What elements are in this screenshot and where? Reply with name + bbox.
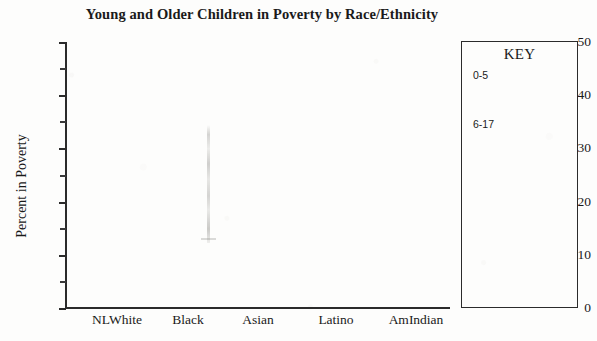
plot-area bbox=[67, 42, 450, 307]
x-tick-label-black: Black bbox=[172, 313, 204, 327]
chart-title: Young and Older Children in Poverty by R… bbox=[62, 6, 462, 23]
legend-entry-0-5: 0-5 bbox=[468, 70, 488, 81]
legend-label: 0-5 bbox=[473, 70, 488, 81]
x-tick-label-asian: Asian bbox=[242, 313, 274, 327]
x-tick-label-latino: Latino bbox=[318, 313, 353, 327]
x-axis-line bbox=[65, 307, 450, 309]
y-tick-minor bbox=[60, 281, 66, 283]
legend-label: 6-17 bbox=[473, 119, 494, 130]
y-tick-minor bbox=[60, 228, 66, 230]
y-tick-major bbox=[59, 42, 66, 44]
x-tick-label-amindian: AmIndian bbox=[389, 313, 444, 327]
chart-page: Young and Older Children in Poverty by R… bbox=[0, 0, 597, 341]
y-tick-minor bbox=[60, 121, 66, 123]
legend-box: KEY 0-56-17 bbox=[461, 41, 578, 308]
scan-artifact bbox=[207, 125, 210, 243]
y-tick-major bbox=[59, 308, 66, 310]
legend-entry-6-17: 6-17 bbox=[468, 119, 494, 130]
x-tick-label-nlwhite: NLWhite bbox=[92, 313, 142, 327]
y-tick-major bbox=[59, 148, 66, 150]
legend-title: KEY bbox=[462, 46, 577, 63]
scan-artifact-foot bbox=[201, 238, 216, 240]
y-tick-major bbox=[59, 202, 66, 204]
y-tick-minor bbox=[60, 175, 66, 177]
y-tick-major bbox=[59, 95, 66, 97]
y-tick-major bbox=[59, 255, 66, 257]
y-axis-title: Percent in Poverty bbox=[14, 111, 30, 261]
y-tick-minor bbox=[60, 68, 66, 70]
